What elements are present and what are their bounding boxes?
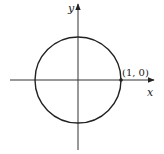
unit-circle-diagram: y x (1, 0) xyxy=(0,0,164,154)
point-1-0 xyxy=(119,78,123,82)
y-axis-label: y xyxy=(67,2,75,15)
x-axis-label: x xyxy=(147,86,154,99)
point-label: (1, 0) xyxy=(122,67,149,78)
